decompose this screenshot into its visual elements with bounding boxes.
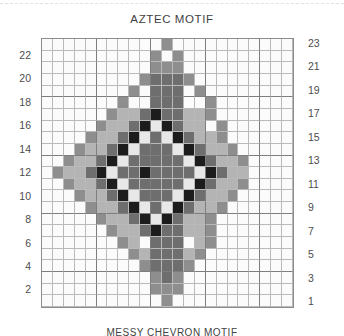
grid-cell[interactable]	[97, 74, 108, 86]
grid-cell[interactable]	[140, 284, 151, 296]
grid-cell[interactable]	[129, 202, 140, 214]
grid-cell[interactable]	[64, 109, 75, 121]
grid-cell[interactable]	[238, 225, 249, 237]
grid-cell[interactable]	[162, 156, 173, 168]
grid-cell[interactable]	[53, 97, 64, 109]
grid-cell[interactable]	[206, 202, 217, 214]
grid-cell[interactable]	[97, 295, 108, 307]
grid-cell[interactable]	[173, 225, 184, 237]
grid-cell[interactable]	[282, 214, 293, 226]
grid-cell[interactable]	[282, 62, 293, 74]
grid-cell[interactable]	[42, 74, 53, 86]
grid-cell[interactable]	[140, 109, 151, 121]
grid-cell[interactable]	[151, 167, 162, 179]
grid-cell[interactable]	[249, 260, 260, 272]
grid-cell[interactable]	[151, 249, 162, 261]
grid-cell[interactable]	[97, 284, 108, 296]
grid-cell[interactable]	[151, 62, 162, 74]
grid-cell[interactable]	[86, 132, 97, 144]
grid-cell[interactable]	[129, 272, 140, 284]
grid-cell[interactable]	[206, 272, 217, 284]
grid-cell[interactable]	[271, 202, 282, 214]
grid-cell[interactable]	[53, 214, 64, 226]
grid-cell[interactable]	[184, 249, 195, 261]
grid-cell[interactable]	[184, 39, 195, 51]
grid-cell[interactable]	[173, 179, 184, 191]
grid-cell[interactable]	[271, 284, 282, 296]
grid-cell[interactable]	[195, 156, 206, 168]
grid-cell[interactable]	[151, 272, 162, 284]
grid-cell[interactable]	[107, 249, 118, 261]
grid-cell[interactable]	[271, 167, 282, 179]
grid-cell[interactable]	[42, 144, 53, 156]
grid-cell[interactable]	[97, 272, 108, 284]
grid-cell[interactable]	[173, 74, 184, 86]
grid-cell[interactable]	[42, 39, 53, 51]
grid-cell[interactable]	[118, 295, 129, 307]
grid-cell[interactable]	[249, 295, 260, 307]
grid-cell[interactable]	[129, 237, 140, 249]
grid-cell[interactable]	[97, 167, 108, 179]
pattern-grid[interactable]	[42, 39, 293, 307]
grid-cell[interactable]	[42, 86, 53, 98]
grid-cell[interactable]	[151, 121, 162, 133]
grid-cell[interactable]	[97, 97, 108, 109]
grid-cell[interactable]	[271, 51, 282, 63]
grid-cell[interactable]	[129, 156, 140, 168]
grid-cell[interactable]	[107, 167, 118, 179]
grid-cell[interactable]	[64, 62, 75, 74]
grid-cell[interactable]	[282, 121, 293, 133]
grid-cell[interactable]	[75, 260, 86, 272]
grid-cell[interactable]	[86, 62, 97, 74]
grid-cell[interactable]	[282, 284, 293, 296]
grid-cell[interactable]	[64, 272, 75, 284]
grid-cell[interactable]	[97, 144, 108, 156]
grid-cell[interactable]	[118, 109, 129, 121]
grid-cell[interactable]	[206, 260, 217, 272]
grid-cell[interactable]	[140, 214, 151, 226]
grid-cell[interactable]	[195, 249, 206, 261]
grid-cell[interactable]	[228, 167, 239, 179]
grid-cell[interactable]	[75, 132, 86, 144]
grid-cell[interactable]	[118, 190, 129, 202]
grid-cell[interactable]	[217, 39, 228, 51]
grid-cell[interactable]	[195, 295, 206, 307]
grid-cell[interactable]	[42, 62, 53, 74]
grid-cell[interactable]	[86, 179, 97, 191]
grid-cell[interactable]	[107, 144, 118, 156]
grid-cell[interactable]	[228, 260, 239, 272]
grid-cell[interactable]	[151, 51, 162, 63]
grid-cell[interactable]	[97, 225, 108, 237]
grid-cell[interactable]	[42, 260, 53, 272]
grid-cell[interactable]	[64, 74, 75, 86]
grid-cell[interactable]	[162, 132, 173, 144]
grid-cell[interactable]	[249, 249, 260, 261]
grid-cell[interactable]	[238, 156, 249, 168]
grid-cell[interactable]	[64, 249, 75, 261]
grid-cell[interactable]	[162, 295, 173, 307]
grid-cell[interactable]	[260, 237, 271, 249]
grid-cell[interactable]	[86, 214, 97, 226]
grid-cell[interactable]	[260, 202, 271, 214]
grid-cell[interactable]	[282, 109, 293, 121]
grid-cell[interactable]	[162, 249, 173, 261]
grid-cell[interactable]	[238, 295, 249, 307]
grid-cell[interactable]	[140, 190, 151, 202]
grid-cell[interactable]	[75, 272, 86, 284]
grid-cell[interactable]	[118, 86, 129, 98]
grid-cell[interactable]	[173, 97, 184, 109]
grid-cell[interactable]	[64, 121, 75, 133]
grid-cell[interactable]	[162, 190, 173, 202]
grid-cell[interactable]	[271, 260, 282, 272]
grid-cell[interactable]	[238, 272, 249, 284]
grid-cell[interactable]	[75, 237, 86, 249]
grid-cell[interactable]	[217, 62, 228, 74]
grid-cell[interactable]	[129, 260, 140, 272]
grid-cell[interactable]	[249, 62, 260, 74]
grid-cell[interactable]	[184, 214, 195, 226]
grid-cell[interactable]	[249, 144, 260, 156]
grid-cell[interactable]	[195, 144, 206, 156]
grid-cell[interactable]	[140, 156, 151, 168]
grid-cell[interactable]	[282, 97, 293, 109]
grid-cell[interactable]	[140, 202, 151, 214]
